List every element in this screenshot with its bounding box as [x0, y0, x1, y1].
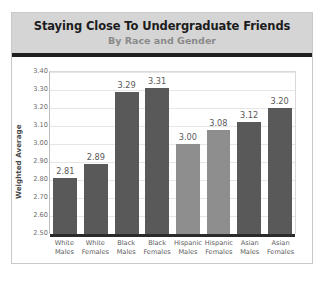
x-category-label: BlackFemales — [142, 239, 173, 257]
x-category-line: Males — [234, 248, 265, 257]
x-category-line: Males — [173, 248, 204, 257]
x-category-line: Black — [142, 239, 173, 248]
y-tick-label: 3.40 — [33, 68, 48, 75]
bar[interactable] — [207, 130, 231, 234]
x-category-line: Males — [49, 248, 80, 257]
x-category-line: White — [49, 239, 80, 248]
chart-card: Staying Close To Undergraduate Friends B… — [11, 12, 313, 264]
bar[interactable] — [237, 122, 261, 234]
bar-value-label: 3.00 — [173, 133, 204, 142]
bar-value-label: 2.89 — [81, 153, 112, 162]
x-category-label: AsianFemales — [265, 239, 296, 257]
x-category-line: Hispanic — [203, 239, 234, 248]
x-category-label: BlackMales — [111, 239, 142, 257]
x-category-line: Females — [142, 248, 173, 257]
x-axis-categories: WhiteMalesWhiteFemalesBlackMalesBlackFem… — [49, 239, 296, 257]
y-tick-label: 3.30 — [33, 86, 48, 93]
bar[interactable] — [84, 164, 108, 234]
x-category-line: Asian — [265, 239, 296, 248]
bar-value-label: 2.81 — [50, 167, 81, 176]
bar-series: 2.812.893.293.313.003.083.123.20 — [50, 72, 295, 234]
y-tick-label: 2.80 — [33, 176, 48, 183]
y-tick-label: 2.90 — [33, 158, 48, 165]
x-category-line: Females — [80, 248, 111, 257]
plot-area: 2.812.893.293.313.003.083.123.20 — [49, 71, 296, 234]
y-tick-label: 2.50 — [33, 230, 48, 237]
bar[interactable] — [53, 178, 77, 234]
x-category-line: Females — [265, 248, 296, 257]
y-axis-ticks: 3.403.303.203.103.002.902.802.702.602.50 — [24, 71, 48, 233]
y-tick-label: 2.60 — [33, 212, 48, 219]
x-category-line: White — [80, 239, 111, 248]
x-category-label: WhiteFemales — [80, 239, 111, 257]
bar-slot: 3.08 — [203, 72, 234, 234]
y-tick-label: 2.70 — [33, 194, 48, 201]
bar-slot: 2.89 — [81, 72, 112, 234]
x-category-line: Females — [203, 248, 234, 257]
x-axis-baseline — [50, 234, 295, 237]
chart-subtitle: By Race and Gender — [12, 33, 312, 46]
y-tick-label: 3.10 — [33, 122, 48, 129]
page-title: Staying Close To Undergraduate Friends — [12, 13, 312, 33]
x-category-label: WhiteMales — [49, 239, 80, 257]
x-category-label: HispanicFemales — [203, 239, 234, 257]
bar-slot: 2.81 — [50, 72, 81, 234]
bar[interactable] — [268, 108, 292, 234]
bar-value-label: 3.08 — [203, 119, 234, 128]
x-category-line: Males — [111, 248, 142, 257]
bar-value-label: 3.20 — [264, 97, 295, 106]
bar-slot: 3.29 — [111, 72, 142, 234]
plot-region: Weighted Average 3.403.303.203.103.002.9… — [12, 57, 312, 264]
bar[interactable] — [145, 88, 169, 234]
chart-screenshot: Staying Close To Undergraduate Friends B… — [0, 0, 334, 282]
bar-value-label: 3.29 — [111, 81, 142, 90]
bar-slot: 3.31 — [142, 72, 173, 234]
bar[interactable] — [176, 144, 200, 234]
x-category-line: Asian — [234, 239, 265, 248]
y-tick-label: 3.20 — [33, 104, 48, 111]
bar-value-label: 3.31 — [142, 77, 173, 86]
chart-title-band: Staying Close To Undergraduate Friends B… — [12, 13, 312, 53]
bar-slot: 3.00 — [173, 72, 204, 234]
x-category-label: AsianMales — [234, 239, 265, 257]
x-category-line: Black — [111, 239, 142, 248]
x-category-label: HispanicMales — [173, 239, 204, 257]
bar-value-label: 3.12 — [234, 111, 265, 120]
y-tick-label: 3.00 — [33, 140, 48, 147]
bar-slot: 3.12 — [234, 72, 265, 234]
bar[interactable] — [115, 92, 139, 234]
x-category-line: Hispanic — [173, 239, 204, 248]
bar-slot: 3.20 — [264, 72, 295, 234]
